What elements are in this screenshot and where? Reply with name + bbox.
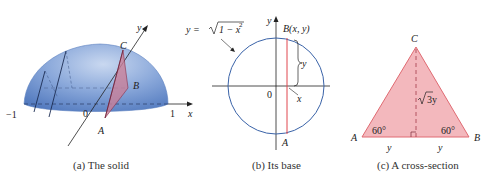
y-axis-arrowhead [142, 25, 148, 32]
height-label: 3y [427, 94, 437, 105]
base-y-axis-arrowhead [274, 16, 279, 22]
equation-pointer [221, 39, 233, 50]
one-label: 1 [170, 108, 175, 119]
angle-b-label: 60° [441, 125, 455, 136]
equation-lhs: y = [185, 24, 200, 35]
panel-b-base: y = 1 − x 2 y B(x, y) y x 0 A (b) Its ba… [185, 15, 330, 172]
point-c-label: C [120, 40, 127, 51]
figure-canvas: y x C B A 0 −1 1 (a) The solid y = 1 − x… [0, 0, 492, 185]
caption-c: (c) A cross-section [377, 159, 459, 172]
vertex-c-label: C [411, 33, 418, 44]
base-y-label: y [266, 15, 272, 26]
equation-exponent: 2 [239, 21, 243, 29]
y-axis-label: y [136, 22, 142, 33]
equation-radicand: 1 − x [219, 24, 241, 35]
caption-a: (a) The solid [73, 159, 130, 172]
point-b-label: B [133, 80, 139, 91]
vertex-a-label: A [350, 132, 358, 143]
x-axis-arrowhead [187, 102, 193, 107]
panel-a-solid: y x C B A 0 −1 1 (a) The solid [6, 22, 193, 172]
x-label: x [296, 93, 302, 104]
x-axis-label: x [187, 108, 193, 119]
base-point-a-label: A [281, 137, 289, 148]
base-right-label: y [437, 142, 443, 153]
base-origin-label: 0 [267, 89, 272, 100]
base-left-label: y [386, 142, 392, 153]
caption-b: (b) Its base [252, 159, 301, 172]
origin-label: 0 [83, 108, 88, 119]
vertex-b-label: B [474, 132, 480, 143]
dome-solid [24, 44, 168, 112]
equation-label: y = [185, 24, 200, 35]
brace-y-label: y [301, 58, 307, 69]
panel-c-cross-section: 3y C A B 60° 60° y y (c) A cross-section [350, 33, 480, 172]
angle-a-label: 60° [372, 125, 386, 136]
brace-y [294, 40, 302, 86]
equilateral-triangle [362, 47, 469, 137]
point-a-label: A [97, 125, 105, 136]
point-b-coord-label: B(x, y) [283, 23, 310, 35]
neg-one-label: −1 [6, 109, 17, 120]
